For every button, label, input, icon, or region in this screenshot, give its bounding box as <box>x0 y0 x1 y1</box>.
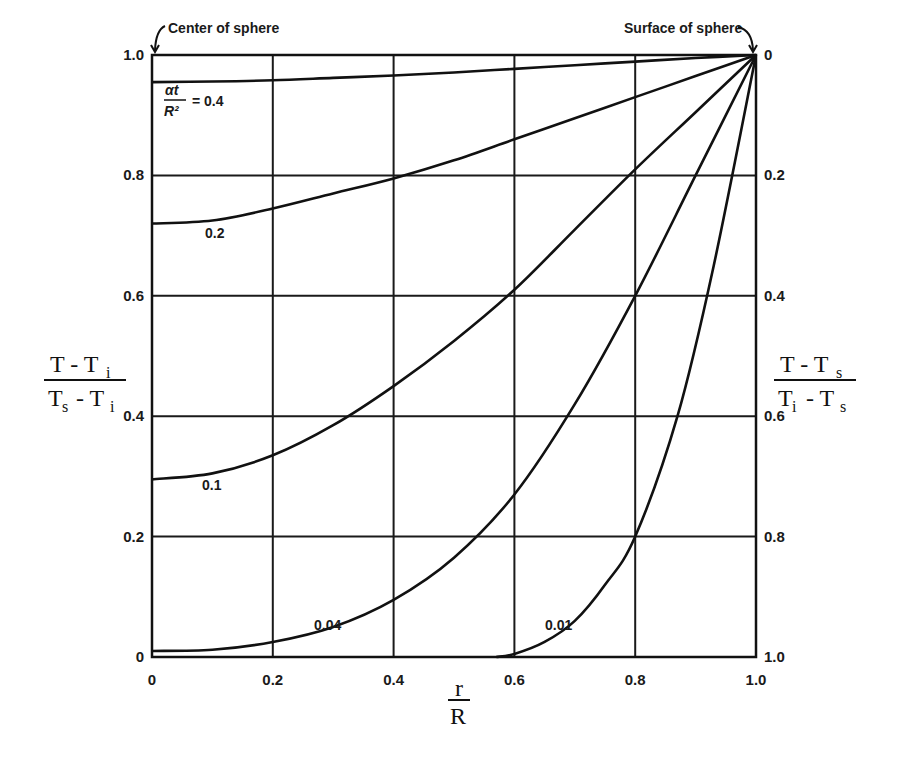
curve-label-0.2: 0.2 <box>205 225 225 241</box>
svg-text:T - T: T - T <box>50 351 99 377</box>
axis-ticks: 001.00.20.20.80.40.40.60.60.60.40.80.80.… <box>123 46 785 688</box>
svg-text:r: r <box>455 675 463 701</box>
x-tick-label: 0 <box>148 671 156 688</box>
curve-label-0.01: 0.01 <box>545 617 572 633</box>
center-arrow-icon <box>155 26 165 50</box>
svg-text:i: i <box>792 398 797 415</box>
x-tick-label: 1.0 <box>746 671 767 688</box>
svg-text:- T: - T <box>806 385 835 411</box>
svg-text:i: i <box>110 398 115 415</box>
temperature-profile-chart: 001.00.20.20.80.40.40.60.60.60.40.80.80.… <box>0 0 898 783</box>
svg-text:s: s <box>836 364 842 381</box>
x-tick-label: 0.8 <box>625 671 646 688</box>
y-tick-label-left: 1.0 <box>123 46 144 63</box>
parameter-label-0.4: αt R² = 0.4 <box>164 82 224 119</box>
y-axis-label-left: T - Ti Ts- Ti <box>44 351 126 415</box>
curve-0.01 <box>496 55 756 657</box>
y-tick-label-right: 0.2 <box>764 166 785 183</box>
x-tick-label: 0.6 <box>504 671 525 688</box>
svg-text:T: T <box>778 385 793 411</box>
y-tick-label-right: 0.4 <box>764 287 786 304</box>
curve-label-0.04: 0.04 <box>314 617 341 633</box>
svg-text:R: R <box>450 703 466 729</box>
x-tick-label: 0.2 <box>262 671 283 688</box>
y-tick-label-right: 1.0 <box>764 648 785 665</box>
plot-border <box>152 55 756 657</box>
svg-text:T - T: T - T <box>780 351 829 377</box>
y-tick-label-left: 0 <box>136 648 144 665</box>
curve-label-0.1: 0.1 <box>202 477 222 493</box>
x-tick-label: 0.4 <box>383 671 405 688</box>
y-tick-label-left: 0.6 <box>123 287 144 304</box>
surface-of-sphere-label: Surface of sphere <box>624 20 742 36</box>
svg-text:- T: - T <box>76 385 105 411</box>
x-axis-label: r R <box>448 675 470 729</box>
svg-text:= 0.4: = 0.4 <box>192 93 224 109</box>
svg-text:αt: αt <box>165 82 180 98</box>
grid-lines <box>152 55 756 657</box>
svg-text:T: T <box>48 385 63 411</box>
y-tick-label-left: 0.8 <box>123 166 144 183</box>
y-tick-label-right: 0.8 <box>764 528 785 545</box>
y-axis-label-right: T - Ts Ti- Ts <box>774 351 856 415</box>
svg-text:i: i <box>106 364 111 381</box>
curves <box>152 55 756 657</box>
svg-text:s: s <box>840 398 846 415</box>
y-tick-label-left: 0.2 <box>123 528 144 545</box>
y-tick-label-left: 0.4 <box>123 407 145 424</box>
y-tick-label-right: 0 <box>764 46 772 63</box>
curve-0.4 <box>152 55 756 82</box>
curve-0.04 <box>152 55 756 651</box>
svg-text:s: s <box>62 398 68 415</box>
svg-text:R²: R² <box>164 103 179 119</box>
center-of-sphere-label: Center of sphere <box>168 20 279 36</box>
